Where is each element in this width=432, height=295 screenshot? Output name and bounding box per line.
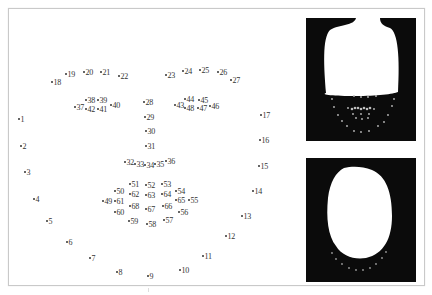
landmark-point-59: 59	[128, 218, 138, 226]
landmark-point-8: 8	[116, 269, 122, 277]
landmark-point-15: 15	[258, 163, 268, 171]
mask-bottom-shape-icon	[306, 158, 416, 282]
landmark-label: 68	[132, 202, 140, 211]
landmark-label: 66	[165, 202, 173, 211]
landmark-point-37: 37	[74, 104, 84, 112]
landmark-point-58: 58	[146, 221, 156, 229]
landmark-label: 64	[164, 190, 172, 199]
landmark-label: 55	[191, 196, 199, 205]
landmark-point-38: 38	[85, 97, 95, 105]
landmark-label: 37	[77, 103, 85, 112]
landmark-label: 11	[205, 252, 212, 261]
landmark-point-39: 39	[97, 97, 107, 105]
landmark-point-32: 32	[124, 159, 134, 167]
landmark-point-67: 67	[145, 206, 155, 214]
landmark-point-61: 61	[114, 198, 124, 206]
landmark-point-44: 44	[184, 96, 194, 104]
decorative-tick	[148, 288, 149, 292]
landmark-label: 46	[212, 102, 220, 111]
landmark-label: 54	[178, 187, 186, 196]
landmark-label: 48	[187, 104, 195, 113]
landmark-label: 29	[147, 113, 155, 122]
landmark-label: 32	[127, 158, 135, 167]
landmark-point-5: 5	[46, 218, 52, 226]
landmark-label: 38	[88, 96, 96, 105]
landmark-label: 2	[23, 142, 27, 151]
landmark-point-53: 53	[161, 181, 171, 189]
landmark-label: 53	[164, 180, 172, 189]
landmark-plot: 1234567891011121314151617181920212223242…	[0, 0, 300, 295]
landmark-point-29: 29	[144, 114, 154, 122]
landmark-label: 10	[182, 266, 190, 275]
landmark-label: 26	[220, 68, 228, 77]
landmark-label: 5	[49, 217, 53, 226]
face-mask-bottom-image	[306, 158, 416, 282]
landmark-label: 41	[100, 105, 108, 114]
landmark-label: 27	[233, 76, 241, 85]
landmark-label: 12	[228, 232, 236, 241]
landmark-point-3: 3	[24, 169, 30, 177]
landmark-label: 44	[187, 95, 195, 104]
landmark-point-65: 65	[175, 197, 185, 205]
landmark-point-57: 57	[163, 217, 173, 225]
landmark-point-56: 56	[178, 209, 188, 217]
landmark-point-30: 30	[145, 128, 155, 136]
landmark-point-9: 9	[147, 273, 153, 281]
landmark-point-19: 19	[65, 71, 75, 79]
landmark-point-46: 46	[209, 103, 219, 111]
landmark-label: 4	[36, 195, 40, 204]
landmark-label: 7	[92, 254, 96, 263]
landmark-label: 52	[148, 181, 156, 190]
landmark-label: 6	[69, 238, 73, 247]
landmark-point-16: 16	[259, 137, 269, 145]
landmark-point-40: 40	[110, 102, 120, 110]
landmark-label: 28	[146, 98, 154, 107]
landmark-point-60: 60	[114, 209, 124, 217]
landmark-label: 63	[148, 191, 156, 200]
landmark-point-47: 47	[197, 105, 207, 113]
landmark-label: 3	[27, 168, 31, 177]
landmark-point-20: 20	[83, 69, 93, 77]
landmark-point-14: 14	[252, 188, 262, 196]
landmark-point-31: 31	[145, 143, 155, 151]
landmark-point-13: 13	[241, 213, 251, 221]
landmark-label: 31	[148, 142, 156, 151]
landmark-label: 17	[263, 111, 271, 120]
landmark-label: 62	[132, 190, 140, 199]
landmark-point-66: 66	[162, 203, 172, 211]
landmark-point-12: 12	[225, 233, 235, 241]
landmark-point-63: 63	[145, 192, 155, 200]
landmark-label: 8	[119, 268, 123, 277]
landmark-label: 43	[177, 101, 185, 110]
landmark-point-50: 50	[114, 188, 124, 196]
landmark-label: 23	[168, 71, 176, 80]
landmark-label: 30	[148, 127, 156, 136]
face-mask-top-image	[306, 18, 416, 141]
landmark-label: 24	[185, 67, 193, 76]
landmark-label: 40	[113, 101, 121, 110]
landmark-point-34: 34	[144, 162, 154, 170]
landmark-point-24: 24	[182, 68, 192, 76]
landmark-point-42: 42	[85, 106, 95, 114]
landmark-point-17: 17	[260, 112, 270, 120]
landmark-label: 60	[117, 208, 125, 217]
landmark-label: 1	[21, 115, 25, 124]
landmark-point-52: 52	[145, 182, 155, 190]
landmark-point-23: 23	[165, 72, 175, 80]
landmark-label: 18	[54, 78, 62, 87]
landmark-label: 36	[168, 157, 176, 166]
landmark-point-6: 6	[66, 239, 72, 247]
landmark-point-64: 64	[161, 191, 171, 199]
landmark-point-22: 22	[118, 73, 128, 81]
landmark-label: 65	[178, 196, 186, 205]
landmark-point-41: 41	[97, 106, 107, 114]
landmark-label: 57	[166, 216, 174, 225]
landmark-point-4: 4	[33, 196, 39, 204]
landmark-point-49: 49	[102, 198, 112, 206]
landmark-point-26: 26	[217, 69, 227, 77]
landmark-point-11: 11	[202, 253, 212, 261]
landmark-label: 16	[262, 136, 270, 145]
landmark-point-21: 21	[100, 69, 110, 77]
mask-top-shape-icon	[306, 18, 416, 141]
landmark-label: 9	[150, 272, 154, 281]
